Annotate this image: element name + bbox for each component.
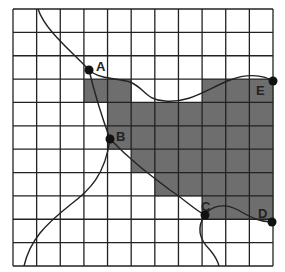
shaded-cell — [226, 196, 250, 220]
shaded-cell — [178, 149, 202, 173]
shaded-cell — [178, 173, 202, 197]
shaded-cell — [226, 102, 250, 126]
shaded-cell — [155, 126, 179, 150]
shaded-cell — [249, 149, 273, 173]
point-d-label: D — [258, 206, 267, 221]
shaded-cell — [249, 126, 273, 150]
point-b-marker — [106, 135, 115, 144]
shaded-cell — [249, 102, 273, 126]
shaded-cell — [226, 149, 250, 173]
shaded-cell — [202, 126, 226, 150]
point-e-marker — [269, 77, 278, 86]
shaded-cell — [108, 102, 132, 126]
shaded-cell — [178, 126, 202, 150]
shaded-cell — [155, 173, 179, 197]
shaded-cell — [108, 79, 132, 103]
shaded-cell — [226, 79, 250, 103]
shaded-cell — [178, 102, 202, 126]
shaded-cell — [226, 126, 250, 150]
shaded-cell — [202, 173, 226, 197]
point-a-label: A — [96, 59, 106, 74]
shaded-cell — [226, 173, 250, 197]
shaded-cell — [131, 102, 155, 126]
shaded-cell — [84, 79, 108, 103]
shaded-cell — [131, 126, 155, 150]
shaded-cell — [249, 173, 273, 197]
point-b-label: B — [116, 129, 125, 144]
point-d-marker — [268, 218, 277, 227]
curve-top-to-A — [38, 9, 89, 70]
shaded-cell — [155, 149, 179, 173]
curve-C-to-bottom — [200, 215, 219, 266]
shaded-cell — [155, 102, 179, 126]
point-a-marker — [85, 66, 94, 75]
shaded-cell — [202, 149, 226, 173]
point-c-label: C — [201, 199, 211, 214]
grid-diagram: ABCDE — [0, 0, 285, 272]
point-e-label: E — [256, 83, 265, 98]
shaded-cell — [202, 102, 226, 126]
